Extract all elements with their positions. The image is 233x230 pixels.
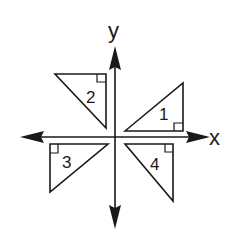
- triangle-2-label: 2: [86, 88, 95, 107]
- x-axis-label: x: [209, 125, 220, 150]
- triangle-4-label: 4: [150, 155, 159, 174]
- triangle-1: 1: [125, 83, 183, 131]
- y-axis-down-arrow-icon: [109, 205, 121, 229]
- right-angle-marker-icon: [174, 123, 183, 131]
- triangle-1-label: 1: [159, 105, 168, 124]
- right-angle-marker-icon: [97, 74, 106, 82]
- right-angle-marker-icon: [50, 144, 58, 153]
- x-axis-right-arrow-icon: [186, 131, 210, 143]
- triangle-2: 2: [55, 74, 106, 128]
- y-axis-up-arrow-icon: [109, 46, 121, 70]
- triangle-3: 3: [50, 144, 108, 192]
- right-angle-marker-icon: [165, 144, 173, 152]
- x-axis-left-arrow-icon: [20, 131, 44, 143]
- triangle-4: 4: [125, 144, 173, 201]
- coordinate-plane-diagram: x y 1 2 3 4: [0, 0, 233, 230]
- triangle-3-label: 3: [62, 153, 71, 172]
- y-axis-label: y: [108, 18, 119, 43]
